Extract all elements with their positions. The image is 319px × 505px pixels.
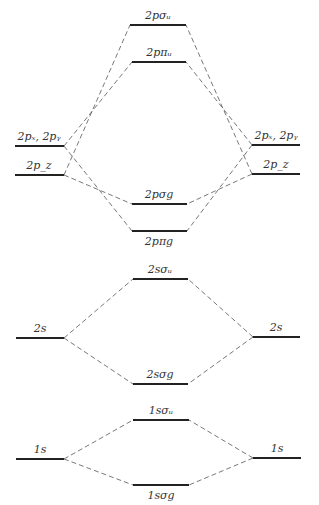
correlation-line <box>64 62 132 146</box>
level-label-s2pg: 2pσg <box>144 188 174 201</box>
correlation-line <box>187 145 252 231</box>
correlation-line <box>64 175 132 204</box>
level-label-L1s: 1s <box>34 443 47 456</box>
correlation-line <box>186 25 252 174</box>
level-label-s2sg: 2sσg <box>145 368 173 381</box>
level-label-L2pxy: 2pₓ, 2pᵧ <box>16 130 61 143</box>
level-label-s1su: 1sσᵤ <box>149 404 174 417</box>
correlation-line <box>64 279 133 338</box>
mo-diagram: 2pₓ, 2pᵧ2p_z2pₓ, 2pᵧ2p_z2pσᵤ2pπᵤ2pσg2pπg… <box>0 0 319 505</box>
level-label-L2pz: 2p_z <box>25 159 52 172</box>
level-label-R2pz: 2p_z <box>262 158 289 171</box>
correlation-line <box>64 25 130 175</box>
correlation-line <box>186 62 252 145</box>
level-label-R2s: 2s <box>269 321 283 334</box>
correlation-line <box>64 420 133 459</box>
correlation-line <box>188 279 253 337</box>
level-label-R2pxy: 2pₓ, 2pᵧ <box>253 129 298 142</box>
correlation-line <box>64 459 133 485</box>
level-label-L2s: 2s <box>33 322 47 335</box>
level-labels: 2pₓ, 2pᵧ2p_z2pₓ, 2pᵧ2p_z2pσᵤ2pπᵤ2pσg2pπg… <box>16 9 298 502</box>
level-label-R1s: 1s <box>271 442 284 455</box>
correlation-line <box>187 174 252 204</box>
level-label-p2pg: 2pπg <box>144 235 173 248</box>
level-label-s2su: 2sσᵤ <box>147 263 173 276</box>
correlation-line <box>189 420 253 458</box>
correlation-line <box>64 146 132 231</box>
level-label-s2pu: 2pσᵤ <box>144 9 171 22</box>
level-label-p2pu: 2pπᵤ <box>145 46 172 59</box>
correlation-line <box>188 337 253 384</box>
correlation-line <box>64 338 133 384</box>
level-label-s1sg: 1sσg <box>147 489 174 502</box>
correlation-line <box>189 458 253 485</box>
